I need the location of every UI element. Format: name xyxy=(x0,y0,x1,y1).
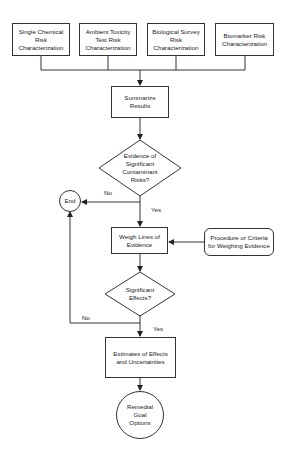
estimates-box: Estimates of Effects and Uncertainties xyxy=(105,337,176,378)
decision-2-no-label: No xyxy=(82,314,90,321)
end-terminal: End xyxy=(59,190,81,212)
decision-2-label: Significant Effects? xyxy=(115,284,165,304)
summarize-results-box: Summarize Results xyxy=(111,86,169,118)
source-ambient-toxicity: Ambient Toxicity Test Risk Characterizat… xyxy=(79,23,137,56)
source-biological-survey: Biological Survey Risk Characterization xyxy=(147,23,205,56)
decision-1-yes-label: Yes xyxy=(151,206,161,213)
decision-1-label: Evidence of Significant Contaminant Risk… xyxy=(110,146,170,190)
weigh-evidence-box: Weigh Lines of Evidence xyxy=(111,227,168,254)
decision-2-yes-label: Yes xyxy=(153,325,163,332)
decision-1-no-label: No xyxy=(104,189,112,196)
remedial-goal-terminal: Remedial Goal Options xyxy=(116,391,164,439)
procedure-criteria-box: Procedure or Criteria for Weighing Evide… xyxy=(204,228,274,256)
source-biomarker: Biomarker Risk Characterization xyxy=(215,23,274,56)
source-single-chemical: Single Chemical Risk Characterization xyxy=(12,23,70,56)
